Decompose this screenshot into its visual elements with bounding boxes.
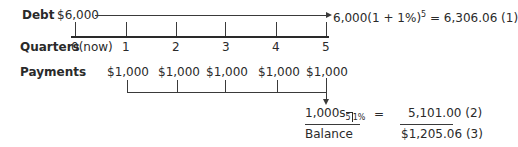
arrow-down-icon (323, 99, 329, 105)
balance-value: $1,205.06 (3) (401, 127, 483, 141)
payment-arrow-line (326, 78, 327, 100)
annuity-formula: 1,000s51% (305, 106, 365, 125)
quarter-1: 1 (122, 40, 130, 54)
axis-tick-1 (126, 22, 127, 36)
axis-tick-2 (176, 22, 177, 36)
quarter-4: 4 (272, 40, 280, 54)
payment-5: $1,000 (306, 65, 348, 79)
quarter-2: 2 (172, 40, 180, 54)
annuity-coef: 1,000s (305, 106, 346, 120)
axis-tick-4 (276, 22, 277, 36)
formula-base: 6,000(1 + 1%) (333, 11, 421, 25)
payment-tick-1 (127, 80, 128, 92)
balance-label: Balance (305, 127, 353, 141)
payment-tick-4 (277, 80, 278, 92)
debt-label: Debt (22, 8, 54, 22)
quarter-3: 3 (222, 40, 230, 54)
quarter-5: 5 (322, 40, 330, 54)
payment-3: $1,000 (206, 65, 248, 79)
formula-exponent: 5 (421, 10, 426, 19)
payment-1: $1,000 (107, 65, 149, 79)
annuity-value: 5,101.00 (2) (408, 106, 482, 120)
annuity-periods: 5 (346, 112, 353, 122)
formula-result: = 6,306.06 (1) (430, 11, 518, 25)
payments-label: Payments (20, 65, 86, 79)
axis-tick-5 (326, 22, 327, 36)
equals-sign: = (374, 107, 384, 121)
arrow-right-icon (326, 12, 332, 18)
debt-amount: $6,000 (57, 8, 99, 22)
fraction-bar-left (305, 124, 360, 125)
payment-tick-2 (177, 80, 178, 92)
payment-4: $1,000 (258, 65, 300, 79)
quarter-0: 0(now) (71, 40, 113, 54)
debt-future-value-formula: 6,000(1 + 1%)5 = 6,306.06 (1) (333, 8, 518, 25)
annuity-rate: 1% (353, 113, 366, 122)
debt-tick (75, 22, 76, 37)
payment-tick-3 (225, 80, 226, 92)
fraction-bar-right (400, 124, 453, 125)
quarters-axis (71, 36, 329, 38)
payment-2: $1,000 (158, 65, 200, 79)
debt-arrow-line (95, 15, 328, 16)
axis-tick-3 (225, 22, 226, 36)
payment-bracket-line (127, 92, 326, 93)
